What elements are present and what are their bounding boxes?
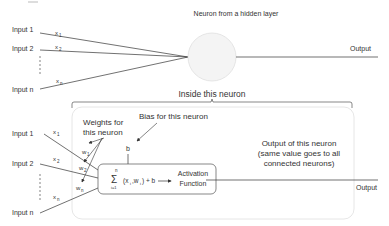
output-desc-line-3: connected neurons) <box>264 159 335 168</box>
top-signal-1: x 1 <box>55 30 62 38</box>
svg-text:n: n <box>81 188 84 193</box>
inside-ellipsis-dots <box>39 174 40 199</box>
bias-arrow <box>137 123 157 141</box>
activation-label-line-2: Function <box>180 180 207 187</box>
inside-input-line-n <box>40 188 98 213</box>
svg-text:x: x <box>53 194 56 200</box>
svg-text:i=1: i=1 <box>111 185 117 190</box>
top-input-2: Input 2 <box>12 45 34 53</box>
weight-1: w 1 <box>81 149 90 157</box>
svg-text:1: 1 <box>59 33 62 38</box>
svg-text:x: x <box>53 129 56 135</box>
svg-text:n: n <box>57 197 60 202</box>
svg-text:x: x <box>56 78 59 84</box>
top-input-1: Input 1 <box>12 26 34 34</box>
inside-input-n: Input n <box>12 209 34 217</box>
inside-output-label: Output <box>356 184 377 192</box>
output-desc-line-1: Output of this neuron <box>262 139 337 148</box>
output-desc-line-2: (same value goes to all <box>258 149 340 158</box>
svg-text:x: x <box>55 30 58 36</box>
svg-text:1: 1 <box>87 152 90 157</box>
top-title: Neuron from a hidden layer <box>194 10 279 18</box>
top-output-label: Output <box>350 45 371 53</box>
svg-text:x: x <box>55 44 58 50</box>
svg-text:2: 2 <box>57 159 60 164</box>
svg-text:1: 1 <box>57 132 60 137</box>
top-input-n: Input n <box>12 86 34 94</box>
top-signal-n: x n <box>56 78 63 86</box>
svg-text:x: x <box>53 156 56 162</box>
inside-signal-2: x 2 <box>53 156 60 164</box>
top-ellipsis-dots <box>39 56 40 73</box>
svg-text:i: i <box>130 181 131 186</box>
svg-text:(x: (x <box>123 177 129 185</box>
svg-text:n: n <box>60 81 63 86</box>
svg-text:i: i <box>140 181 141 186</box>
neuron-diagram: Neuron from a hidden layer Input 1 Input… <box>0 0 389 226</box>
weight-n: w n <box>75 185 84 193</box>
weights-label-line-1: Weights for <box>83 118 124 127</box>
svg-text:Σ: Σ <box>111 174 117 185</box>
svg-text:) + b: ) + b <box>142 177 156 185</box>
faint-mark <box>28 1 38 3</box>
svg-text:,w: ,w <box>132 177 139 184</box>
inside-input-2: Input 2 <box>12 160 34 168</box>
inside-input-1: Input 1 <box>12 130 34 138</box>
weights-label-line-2: this neuron <box>83 128 123 137</box>
bias-symbol: b <box>126 145 130 152</box>
inside-title: Inside this neuron <box>178 89 245 99</box>
bias-label: Bias for this neuron <box>139 112 208 121</box>
activation-label-line-1: Activation <box>178 170 208 177</box>
inside-signal-n: x n <box>53 194 60 202</box>
hidden-neuron-circle <box>188 33 236 81</box>
inside-signal-1: x 1 <box>53 129 60 137</box>
weight-2: w 2 <box>78 165 87 173</box>
